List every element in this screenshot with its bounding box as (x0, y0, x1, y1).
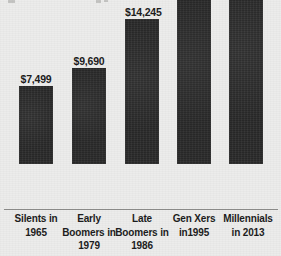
bar-early-boomers[interactable] (72, 68, 106, 164)
bar-silents[interactable] (19, 86, 53, 164)
bar-chart-figure: $7,499 $9,690 $14,245 $15,780 $17,500 Si… (0, 0, 281, 256)
bar-value-label: $7,499 (19, 74, 53, 85)
x-label-line: in 2013 (216, 226, 280, 240)
x-label-line: 1986 (108, 239, 176, 253)
bar-millennials[interactable] (229, 0, 263, 164)
bar-group: $9,690 (72, 68, 106, 164)
x-axis-label-row: Silents in 1965 Early Boomers in 1979 La… (0, 212, 281, 256)
bar-late-boomers[interactable] (125, 19, 159, 164)
x-label-line: Millennials (216, 212, 280, 226)
x-label-line: Gen Xers (164, 212, 224, 226)
x-axis-line (4, 209, 278, 210)
bar-group: $7,499 (19, 86, 53, 164)
bar-value-label: $9,690 (72, 56, 106, 67)
bar-value-label: $14,245 (125, 7, 159, 18)
plot-area: $7,499 $9,690 $14,245 $15,780 $17,500 (0, 0, 281, 211)
bar-group: $17,500 (229, 0, 263, 164)
x-label-millennials: Millennials in 2013 (216, 212, 280, 239)
bar-gen-xers[interactable] (177, 0, 211, 164)
bar-group: $14,245 (125, 19, 159, 164)
bar-group: $15,780 (177, 0, 211, 164)
x-label-gen-xers: Gen Xers in1995 (164, 212, 224, 239)
x-label-line: in1995 (164, 226, 224, 240)
